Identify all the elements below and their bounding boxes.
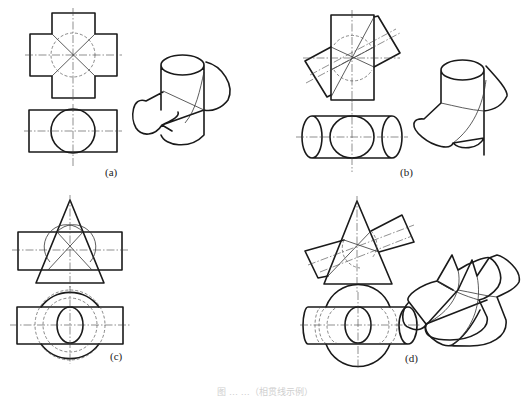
panel-label-b: (b) [400, 166, 413, 178]
thick-path [426, 255, 520, 346]
figure-caption: 图 … …（相贯线示例） [0, 385, 530, 398]
thick-rect [17, 307, 123, 344]
panel-d-drawing [300, 196, 519, 368]
panel-label-c: (c) [110, 350, 122, 362]
panel-a-drawing [24, 8, 230, 166]
thick-polyline [371, 215, 414, 252]
panel-label-a: (a) [105, 166, 117, 178]
thick-polyline [374, 16, 400, 67]
center-line [320, 236, 412, 272]
thin-line [57, 232, 92, 270]
panel-label-d: (d) [405, 352, 418, 364]
panel-b-drawing [296, 10, 507, 172]
thick-path [303, 307, 417, 344]
panel-c-drawing [10, 195, 501, 364]
thin-line [331, 17, 374, 97]
thin-line [48, 232, 83, 270]
hidden-path [315, 307, 397, 344]
thin-line [328, 231, 371, 276]
thin-path [163, 72, 204, 123]
thin-path [441, 80, 486, 143]
